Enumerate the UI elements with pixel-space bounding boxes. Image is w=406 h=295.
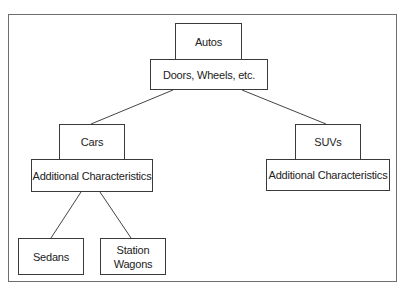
node-autos: Autos <box>175 23 242 60</box>
node-station-wagons-line2: Wagons <box>114 257 153 271</box>
link-cars-sedans <box>51 192 81 238</box>
node-suvs-attributes-label: Additional Characteristics <box>269 168 388 182</box>
node-cars: Cars <box>59 124 125 160</box>
node-autos-attributes-label: Doors, Wheels, etc. <box>163 68 255 82</box>
link-cars-wagons <box>100 192 131 238</box>
node-autos-label: Autos <box>195 35 222 49</box>
node-suvs-attributes: Additional Characteristics <box>266 159 390 191</box>
node-cars-label: Cars <box>81 135 103 149</box>
node-station-wagons-line1: Station <box>117 243 150 257</box>
node-station-wagons: Station Wagons <box>100 238 166 275</box>
node-cars-attributes-label: Additional Characteristics <box>33 169 152 183</box>
node-sedans: Sedans <box>18 238 84 275</box>
node-cars-attributes: Additional Characteristics <box>31 159 153 192</box>
node-autos-attributes: Doors, Wheels, etc. <box>150 59 268 90</box>
node-sedans-label: Sedans <box>33 250 69 264</box>
link-autos-cars <box>91 90 173 124</box>
node-suvs: SUVs <box>295 124 361 160</box>
node-suvs-label: SUVs <box>314 135 341 149</box>
link-autos-suvs <box>242 90 326 124</box>
